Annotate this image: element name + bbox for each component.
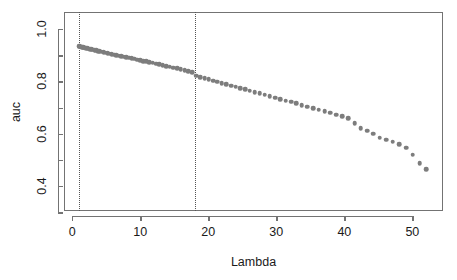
y-axis-tick [58,134,63,135]
x-axis-line [72,216,412,217]
y-axis-tick-label: 0.6 [36,125,49,142]
x-axis-tick-label: 10 [133,226,147,239]
x-axis-tick-label: 40 [337,226,351,239]
x-axis-tick-label: 20 [201,226,215,239]
y-axis-line [58,29,59,212]
x-axis-title: Lambda [231,256,276,269]
y-axis-tick [58,212,63,213]
y-axis-tick-label: 1.0 [36,20,49,37]
y-axis-tick [58,29,63,30]
x-axis-tick [208,216,209,221]
y-axis-tick [58,81,63,82]
x-axis-tick-label: 0 [69,226,76,239]
lambda-min-line [79,12,80,211]
x-axis-tick-label: 30 [269,226,283,239]
y-axis-tick-label: 0.4 [36,177,49,194]
x-axis-tick [276,216,277,221]
plot-panel-border [64,12,443,211]
y-axis-tick [58,55,63,56]
lambda-1se-line [195,12,196,211]
y-axis-tick [58,186,63,187]
auc-vs-lambda-scatter-plot: 01020304050 0.40.60.81.0 Lambda auc [0,0,457,280]
y-axis-tick [58,108,63,109]
x-axis-tick [412,216,413,221]
x-axis-tick-label: 50 [405,226,419,239]
y-axis-tick-label: 0.8 [36,73,49,90]
y-axis-tick [58,160,63,161]
x-axis-tick [140,216,141,221]
y-axis-title: auc [10,101,23,121]
x-axis-tick [344,216,345,221]
x-axis-tick [72,216,73,221]
